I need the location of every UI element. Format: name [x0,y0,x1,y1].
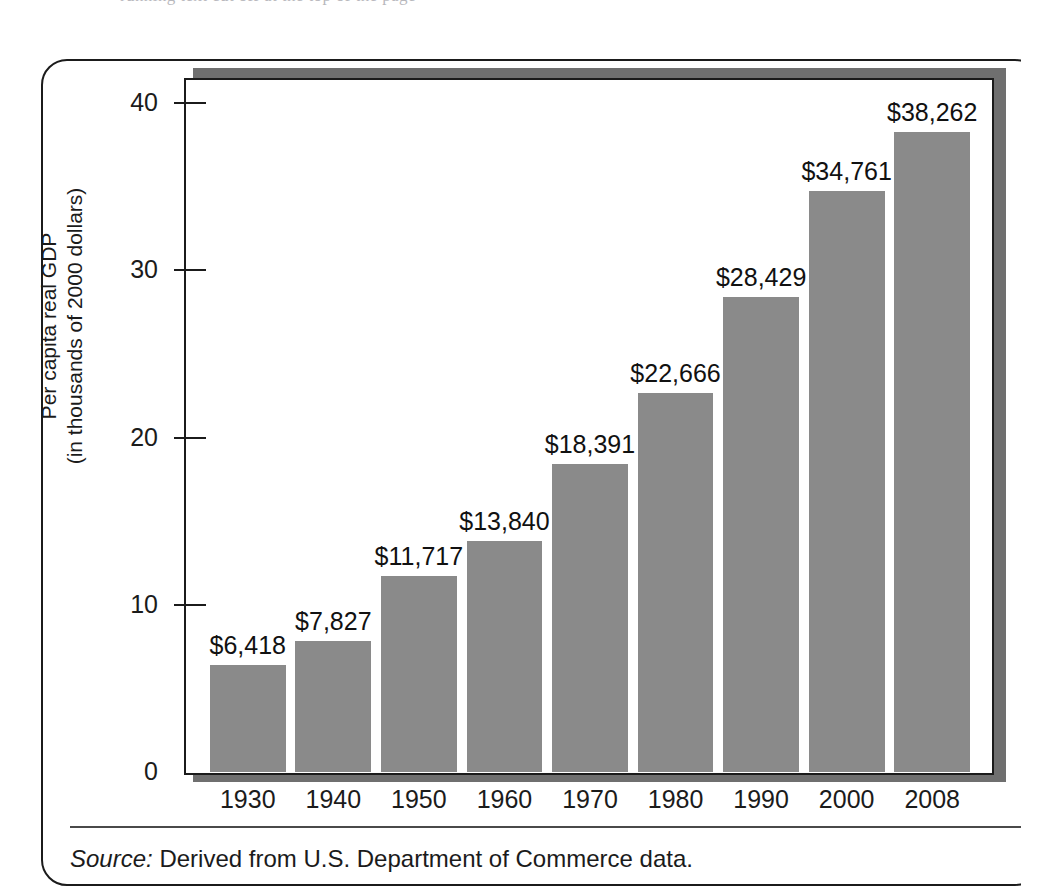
bar [467,541,543,772]
page-right-mask [1021,40,1056,892]
y-tick-mark-outer [174,604,185,606]
bar [381,576,457,772]
y-axis-title-line-1: Per capita real GDP [36,126,62,526]
y-tick-mark-outer [174,102,185,104]
y-tick-label: 0 [98,759,158,784]
y-axis-title-line-2: (in thousands of 2000 dollars) [62,126,88,526]
y-tick-label: 40 [98,90,158,115]
y-tick-mark-outer [174,437,185,439]
bar-value-label: $38,262 [852,100,1012,125]
y-tick-label: 20 [98,425,158,450]
bar [638,393,714,772]
y-tick-mark [186,437,206,439]
y-tick-mark [186,269,206,271]
source-divider [70,826,1030,828]
y-tick-label: 10 [98,592,158,617]
bar [210,665,286,772]
y-tick-mark-outer [174,269,185,271]
bar [295,641,371,772]
source-body: Derived from U.S. Department of Commerce… [159,845,693,872]
y-tick-mark [186,604,206,606]
source-note: Source: Derived from U.S. Department of … [70,845,693,873]
page-canvas: running text cut off at the top of the p… [0,0,1056,892]
bar [552,464,628,772]
y-tick-mark [186,102,206,104]
y-axis-title: Per capita real GDP (in thousands of 200… [36,126,88,526]
bar-chart: Per capita real GDP (in thousands of 200… [0,0,1056,892]
source-label: Source: [70,845,153,872]
x-axis-label: 2008 [872,787,992,812]
bar [894,132,970,772]
y-tick-label: 30 [98,257,158,282]
bar [723,297,799,772]
bar [809,191,885,772]
